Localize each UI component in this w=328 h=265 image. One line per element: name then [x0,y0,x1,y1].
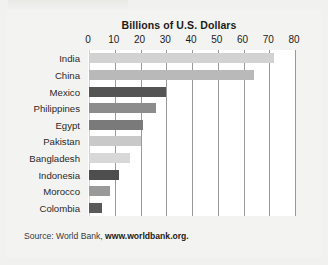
category-label-mexico: Mexico [50,86,80,97]
x-tick-label-0: 0 [85,34,91,45]
source-link-text: www.worldbank.org. [105,231,189,241]
x-axis-tick-labels: 01020304050607080 [88,34,296,48]
x-tick-label-70: 70 [263,34,274,45]
category-label-morocco: Morocco [43,186,80,197]
x-tick-label-60: 60 [237,34,248,45]
cropped-text-sliver [8,0,128,9]
bar-mexico [89,87,166,97]
category-label-indonesia: Indonesia [38,169,80,180]
x-tick-label-20: 20 [134,34,145,45]
gridline-80 [295,50,296,216]
bar-morocco [89,186,110,196]
category-label-bangladesh: Bangladesh [29,152,80,163]
x-tick-label-40: 40 [185,34,196,45]
category-label-colombia: Colombia [39,202,80,213]
chart-figure: Billions of U.S. Dollars 010203040506070… [6,9,322,257]
bar-indonesia [89,170,119,180]
category-label-india: India [59,53,80,64]
bar-series [89,50,295,216]
chart-screenshot: Billions of U.S. Dollars 010203040506070… [0,0,328,265]
plot-wrapper: 01020304050607080 IndiaChinaMexicoPhilip… [6,9,322,257]
bar-pakistan [89,136,141,146]
y-axis-category-labels: IndiaChinaMexicoPhilippinesEgyptPakistan… [6,50,84,216]
source-note: Source: World Bank, www.worldbank.org. [24,231,189,241]
bar-india [89,53,274,63]
bar-china [89,70,254,80]
x-tick-label-30: 30 [160,34,171,45]
category-label-egypt: Egypt [55,119,80,130]
bar-egypt [89,120,143,130]
x-tick-label-10: 10 [108,34,119,45]
source-prefix: Source: World Bank, [24,231,105,241]
bar-philippines [89,103,156,113]
x-tick-label-50: 50 [211,34,222,45]
bar-bangladesh [89,153,130,163]
x-tick-label-80: 80 [288,34,299,45]
category-label-china: China [55,69,80,80]
plot-area [88,50,295,216]
category-label-pakistan: Pakistan [43,136,80,147]
category-label-philippines: Philippines [34,103,80,114]
bar-colombia [89,203,102,213]
